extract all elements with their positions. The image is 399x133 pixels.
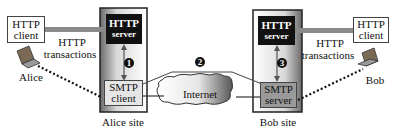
bob-transactions-line2: transactions xyxy=(300,50,356,61)
bob-site-label: Bob site xyxy=(255,117,301,128)
bob-http-server-line1: HTTP xyxy=(262,20,292,31)
bob-smtp-server-line2: server xyxy=(265,95,292,106)
alice-transactions-line2: transactions xyxy=(42,49,98,60)
bob-name: Bob xyxy=(362,75,388,86)
alice-laptop-icon xyxy=(17,46,40,68)
bob-http-client-box: HTTP client xyxy=(353,17,389,43)
bob-http-server-box: HTTP server xyxy=(258,16,295,45)
step-1-number: 1 xyxy=(124,58,134,69)
step-3-number: 3 xyxy=(277,58,287,69)
alice-http-server-line1: HTTP xyxy=(109,18,139,29)
bob-laptop-icon xyxy=(358,48,378,66)
alice-smtp-client-box: SMTP client xyxy=(104,80,143,106)
bob-http-client-line2: client xyxy=(359,30,383,41)
step-2-number: 2 xyxy=(195,57,205,68)
internet-label: Internet xyxy=(178,89,222,100)
alice-http-server-box: HTTP server xyxy=(106,14,142,44)
alice-smtp-client-line2: client xyxy=(111,93,135,104)
bob-transactions-line1: HTTP xyxy=(310,38,350,49)
alice-transactions-line1: HTTP xyxy=(52,37,92,48)
alice-http-client-line2: client xyxy=(14,30,38,41)
bob-http-link xyxy=(295,28,355,33)
alice-http-server-line2: server xyxy=(112,29,136,40)
bob-smtp-server-box: SMTP server xyxy=(260,82,297,108)
bob-http-server-line2: server xyxy=(265,31,289,42)
alice-name: Alice xyxy=(16,72,46,83)
alice-http-client-line1: HTTP xyxy=(12,19,40,30)
alice-site-label: Alice site xyxy=(98,117,148,128)
alice-http-link xyxy=(44,27,106,32)
alice-http-client-box: HTTP client xyxy=(7,16,45,43)
